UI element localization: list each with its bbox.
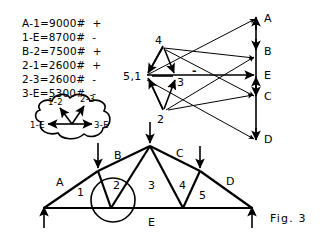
maxwell-vertex-2: 2 (157, 113, 164, 126)
maxwell-vertex-5-1: 5,1 (123, 70, 142, 83)
callout-label-1-E: 1-E (30, 120, 45, 130)
maxwell-force-diagram: A B E C D 5,1 4 2 3 - - (123, 12, 273, 146)
force-row-1-E: 1-E=8700# - (22, 31, 96, 43)
figure-caption: Fig. 3 (270, 212, 307, 225)
truss-panel-4: 4 (179, 179, 186, 192)
callout-arrows (48, 106, 92, 124)
truss-panel-3: 3 (148, 179, 155, 192)
truss-label-B: B (114, 149, 122, 162)
maxwell-label-B: B (264, 45, 272, 58)
maxwell-label-C: C (264, 90, 272, 103)
maxwell-label-D: D (264, 133, 273, 146)
truss-label-C: C (176, 147, 184, 160)
figure-3-graphical-statics: A B E C D 5,1 4 2 3 - - 1-2 (0, 0, 329, 240)
maxwell-label-E: E (264, 69, 271, 82)
force-row-3-E: 3-E=5300# - (22, 87, 96, 99)
force-row-B-2: B-2=7500# + (22, 45, 102, 57)
maxwell-sign-mark-1: - (192, 64, 197, 77)
truss-panel-2: 2 (113, 179, 120, 192)
truss-label-E: E (148, 216, 155, 229)
figure-canvas: A B E C D 5,1 4 2 3 - - 1-2 (0, 0, 329, 240)
maxwell-vertex-4: 4 (155, 34, 162, 47)
force-value-list: A-1=9000# + 1-E=8700# - B-2=7500# + 2-1=… (22, 17, 102, 99)
truss-label-D: D (226, 175, 235, 188)
maxwell-label-A: A (264, 12, 272, 25)
maxwell-left-cluster (148, 46, 175, 110)
maxwell-sign-mark-2: - (170, 80, 175, 93)
maxwell-vertex-3: 3 (177, 76, 184, 89)
joint-detail-callout: 1-2 2-3 1-E 3-E (30, 94, 110, 139)
callout-label-3-E: 3-E (94, 120, 109, 130)
truss-panel-5: 5 (199, 189, 206, 202)
force-row-2-3: 2-3=2600# - (22, 73, 96, 85)
truss-panel-1: 1 (77, 186, 84, 199)
force-row-2-1: 2-1=2600# + (22, 59, 101, 71)
force-row-A-1: A-1=9000# + (22, 17, 102, 29)
truss-label-A: A (56, 176, 64, 189)
